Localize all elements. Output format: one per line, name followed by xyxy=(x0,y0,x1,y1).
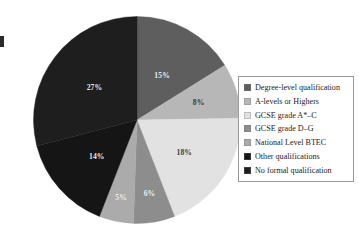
pie-slice-data-label: 5% xyxy=(115,193,127,202)
legend-item[interactable]: National Level BTEC xyxy=(244,136,349,149)
legend-color-swatch xyxy=(244,125,251,132)
legend-item[interactable]: GCSE grade D–G xyxy=(244,122,349,135)
pie-slice-data-label: 14% xyxy=(89,152,105,161)
legend-color-swatch xyxy=(244,112,251,119)
legend-item-label: Other qualifications xyxy=(255,150,320,163)
legend-item[interactable]: GCSE grade A*–C xyxy=(244,109,349,122)
chart-legend: Degree-level qualificationA-levels or Hi… xyxy=(238,76,354,182)
legend-color-swatch xyxy=(244,167,251,174)
legend-item[interactable]: A-levels or Highers xyxy=(244,95,349,108)
pie-slice-group xyxy=(33,16,240,223)
pie-svg: 15%8%18%6%5%14%27% xyxy=(33,16,241,224)
legend-item-label: GCSE grade D–G xyxy=(255,122,314,135)
pie-chart-figure: 15%8%18%6%5%14%27% Degree-level qualific… xyxy=(0,0,359,233)
legend-item-label: Degree-level qualification xyxy=(255,81,340,94)
pie-slice-data-label: 8% xyxy=(193,98,205,107)
legend-item-list: Degree-level qualificationA-levels or Hi… xyxy=(244,81,349,177)
pie-slice-data-label: 15% xyxy=(154,71,170,80)
legend-item-label: No formal qualification xyxy=(255,164,332,177)
pie-slice-data-label: 6% xyxy=(144,189,156,198)
pie-chart-plot-area: 15%8%18%6%5%14%27% xyxy=(33,16,241,224)
pie-slice-data-label: 27% xyxy=(87,83,103,92)
legend-item-label: A-levels or Highers xyxy=(255,95,319,108)
legend-item-label: National Level BTEC xyxy=(255,136,326,149)
legend-item-label: GCSE grade A*–C xyxy=(255,109,317,122)
legend-color-swatch xyxy=(244,98,251,105)
legend-color-swatch xyxy=(244,139,251,146)
legend-item[interactable]: Degree-level qualification xyxy=(244,81,349,94)
page-edge-artifact xyxy=(0,36,4,47)
legend-item[interactable]: Other qualifications xyxy=(244,150,349,163)
legend-color-swatch xyxy=(244,153,251,160)
pie-slice-data-label: 18% xyxy=(177,148,193,157)
legend-color-swatch xyxy=(244,84,251,91)
legend-item[interactable]: No formal qualification xyxy=(244,164,349,177)
